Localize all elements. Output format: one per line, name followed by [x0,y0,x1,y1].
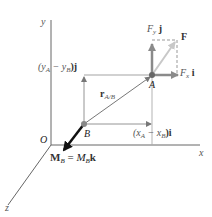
force-fx-label: Fx i [180,68,195,80]
r-sub: A/B [104,93,115,101]
xc-mid: − x [145,127,161,138]
x-component-label: (xA − xB)i [133,128,172,140]
y-component-label: (yA − yB)j [38,62,77,74]
point-b-label: B [84,129,90,139]
fx-unit: i [192,67,195,78]
point-a [149,72,155,78]
force-f-arrow [152,42,175,75]
fy-unit: j [159,23,162,34]
position-vector-r [84,77,150,124]
fx-sub: x [186,72,189,80]
xc-open: (x [133,127,141,138]
z-axis [8,145,51,205]
xc-close: )i [166,127,172,138]
m-rhs-main: M [76,151,85,163]
fy-sub: y [153,28,156,36]
force-f-label: F [181,32,187,42]
point-a-label: A [149,80,155,90]
yc-close: )j [71,61,78,72]
moment-equation: MB = MBk [50,152,96,165]
m-equals: = [65,151,77,163]
y-axis-label: y [41,17,45,27]
position-vector-label: rA/B [100,89,115,101]
force-fy-label: Fy j [147,24,162,36]
point-b [81,121,87,127]
x-axis-label: x [199,148,203,158]
yc-mid: − y [50,61,66,72]
moment-arrow [64,124,84,150]
m-rhs-unit: k [90,151,96,163]
origin-label: O [40,135,47,145]
m-lhs-main: M [50,151,60,163]
z-axis-label: z [5,203,9,213]
yc-open: (y [38,61,46,72]
